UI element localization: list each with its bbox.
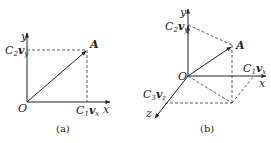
vector-arrow [27,51,86,102]
x-component-label: C1vx [76,104,99,118]
x-axis-label: x [103,103,110,116]
caption-a: (a) [56,123,70,134]
origin-label: O [178,70,187,83]
figure-b: y C2vy A O C1vx x C3vz z (b) [143,6,266,134]
origin-label: O [18,102,27,115]
dashed-x-to-foot [232,76,254,103]
x-axis-label: x [259,77,266,90]
x-component-label: C1vx [243,62,266,76]
y-axis-label: y [179,6,187,19]
y-component-label: C2vy [5,44,29,58]
dashed-y-to-A [188,25,232,45]
caption-b: (b) [200,123,214,134]
figure-a: y C2vy A O C1vx x (a) [5,30,110,134]
dashed-O-to-foot [188,76,232,103]
z-axis-label: z [145,107,152,120]
vector-component-diagrams: y C2vy A O C1vx x (a) y C2vy A O C1vx x … [0,0,271,143]
z-component-label: C3vz [143,88,166,102]
y-axis-label: y [20,30,28,43]
point-label: A [235,39,245,52]
y-component-label: C2vy [165,20,189,34]
point-label: A [89,38,99,51]
vector-arrow [188,47,231,76]
